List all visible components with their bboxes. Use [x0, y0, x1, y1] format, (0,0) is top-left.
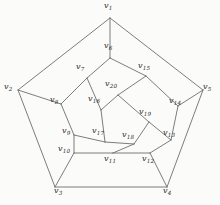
vertex-label-subscript: 10: [63, 148, 70, 154]
vertex-label-v8: v8: [50, 96, 58, 104]
vertex-label-subscript: 18: [127, 134, 134, 140]
vertex-label-v11: v11: [104, 155, 116, 163]
vertex-label-base: v: [76, 62, 81, 71]
vertex-label-base: v: [92, 126, 97, 135]
vertex-label-v3: v3: [54, 187, 62, 195]
graph-edges-canvas: [0, 0, 220, 205]
vertex-label-subscript: 6: [109, 45, 113, 51]
vertex-label-subscript: 3: [59, 190, 63, 196]
graph-edge: [150, 140, 171, 153]
vertex-label-subscript: 1: [109, 5, 113, 11]
graph-edge: [18, 18, 110, 90]
vertex-label-v18: v18: [122, 131, 134, 139]
vertex-label-base: v: [139, 107, 144, 116]
graph-edge: [134, 122, 149, 144]
vertex-label-base: v: [104, 154, 109, 163]
vertex-label-base: v: [169, 96, 174, 105]
vertex-label-base: v: [54, 186, 59, 195]
vertex-label-subscript: 14: [174, 100, 181, 106]
graph-edge: [113, 144, 134, 153]
vertex-label-v2: v2: [4, 83, 12, 91]
vertex-label-base: v: [88, 94, 93, 103]
vertex-label-v14: v14: [169, 97, 181, 105]
vertex-label-base: v: [4, 82, 9, 91]
vertex-label-subscript: 9: [67, 130, 71, 136]
vertex-label-subscript: 12: [147, 158, 154, 164]
vertex-label-v4: v4: [163, 187, 171, 195]
vertex-label-base: v: [104, 41, 109, 50]
vertex-label-subscript: 2: [9, 86, 13, 92]
graph-edge: [118, 76, 146, 95]
graph-edge: [74, 135, 105, 142]
vertex-label-subscript: 13: [168, 132, 175, 138]
vertex-label-subscript: 7: [81, 66, 85, 72]
vertex-label-base: v: [138, 61, 143, 70]
graph-edge: [101, 95, 118, 110]
vertex-label-subscript: 5: [208, 86, 212, 92]
vertex-label-v15: v15: [138, 62, 150, 70]
vertex-label-subscript: 17: [97, 130, 104, 136]
graph-figure: v1v2v3v4v5v6v7v8v9v10v11v12v13v14v15v16v…: [0, 0, 220, 205]
graph-edge: [101, 110, 105, 142]
graph-edge: [178, 90, 203, 106]
vertex-label-base: v: [62, 126, 67, 135]
vertex-label-v5: v5: [203, 83, 211, 91]
graph-edge: [87, 58, 110, 78]
graph-edge: [55, 153, 74, 187]
graph-edge: [105, 142, 134, 144]
vertex-label-v17: v17: [92, 127, 104, 135]
graph-edge: [110, 18, 203, 90]
vertex-label-v13: v13: [163, 129, 175, 137]
vertex-label-v1: v1: [104, 2, 112, 10]
vertex-label-base: v: [58, 144, 63, 153]
vertex-label-v10: v10: [58, 145, 70, 153]
vertex-label-subscript: 8: [55, 99, 59, 105]
vertex-label-base: v: [203, 82, 208, 91]
vertex-label-base: v: [122, 130, 127, 139]
vertex-label-subscript: 4: [168, 190, 172, 196]
vertex-label-v16: v16: [88, 95, 100, 103]
vertex-label-v12: v12: [142, 155, 154, 163]
vertex-label-v7: v7: [76, 63, 84, 71]
vertex-label-v20: v20: [105, 80, 117, 88]
vertex-label-v6: v6: [104, 42, 112, 50]
vertex-label-subscript: 16: [93, 98, 100, 104]
vertex-label-subscript: 11: [109, 158, 116, 164]
vertex-label-base: v: [50, 95, 55, 104]
vertex-label-subscript: 20: [110, 83, 117, 89]
vertex-label-base: v: [142, 154, 147, 163]
vertex-label-base: v: [163, 186, 168, 195]
graph-edge: [18, 90, 55, 187]
vertex-label-subscript: 19: [144, 111, 151, 117]
vertex-label-base: v: [163, 128, 168, 137]
vertex-label-v9: v9: [62, 127, 70, 135]
vertex-label-subscript: 15: [143, 65, 150, 71]
vertex-label-v19: v19: [139, 108, 151, 116]
vertex-label-base: v: [104, 1, 109, 10]
graph-edge: [61, 78, 87, 104]
vertex-label-base: v: [105, 79, 110, 88]
